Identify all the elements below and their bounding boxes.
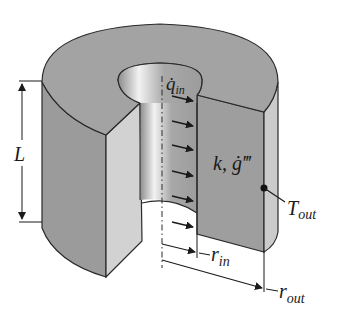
inner-radius-label: rin bbox=[211, 243, 230, 269]
bore-wall bbox=[140, 95, 197, 213]
outer-radius-label: rout bbox=[279, 280, 306, 306]
outer-temp-label: Tout bbox=[287, 197, 317, 222]
bore-opening bbox=[118, 63, 202, 103]
length-label: L bbox=[13, 143, 25, 165]
properties-label: k, ġ‴ bbox=[213, 152, 252, 175]
hollow-cylinder-diagram: q̇in k, ġ‴ Tout L rin rout bbox=[0, 0, 341, 321]
inner-radius-arrow bbox=[162, 244, 195, 252]
